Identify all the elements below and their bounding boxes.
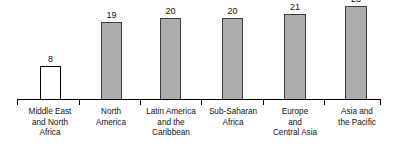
- x-axis-line: [17, 99, 381, 100]
- bar-value-label: 21: [290, 2, 300, 12]
- bar-rect[interactable]: [101, 22, 122, 100]
- x-axis-tick: [17, 100, 18, 105]
- x-axis-tick: [324, 100, 325, 105]
- bar-value-label: 8: [48, 54, 53, 64]
- category-label-line: America: [80, 118, 142, 129]
- category-label-north-america: North America: [80, 107, 142, 128]
- category-label-line: Central Asia: [259, 128, 331, 139]
- category-label-asia-and-the-pacific: Asia and the Pacific: [322, 107, 392, 128]
- bar-group-europe-and-central-asia[interactable]: 21: [284, 0, 306, 100]
- bar-value-label: 20: [165, 6, 175, 16]
- category-labels-layer: Middle East and North Africa North Ameri…: [0, 107, 401, 149]
- x-axis-tick: [380, 100, 381, 105]
- category-label-line: Middle East: [12, 107, 88, 118]
- category-label-line: North: [80, 107, 142, 118]
- bar-group-middle-east-and-north-africa[interactable]: 8: [40, 0, 61, 100]
- category-label-line: and the: [134, 118, 208, 129]
- x-axis-tick: [263, 100, 264, 105]
- category-label-europe-and-central-asia: Europe and Central Asia: [259, 107, 331, 139]
- category-label-line: Latin America: [134, 107, 208, 118]
- category-label-sub-saharan-africa: Sub-Saharan Africa: [198, 107, 268, 128]
- bar-value-label: 23: [351, 0, 361, 4]
- category-label-line: the Pacific: [322, 118, 392, 129]
- bar-rect[interactable]: [345, 6, 367, 100]
- bar-group-north-america[interactable]: 19: [101, 0, 122, 100]
- bar-value-label: 20: [227, 6, 237, 16]
- category-label-latin-america-and-the-caribbean: Latin America and the Caribbean: [134, 107, 208, 139]
- bar-group-latin-america-and-the-caribbean[interactable]: 20: [160, 0, 181, 100]
- x-axis-tick: [79, 100, 80, 105]
- x-axis-tick: [140, 100, 141, 105]
- bars-layer: 8 19 20 20 21 23: [0, 0, 401, 100]
- bar-value-label: 19: [106, 10, 116, 20]
- bar-group-asia-and-the-pacific[interactable]: 23: [345, 0, 367, 100]
- bar-chart-figure: 8 19 20 20 21 23: [0, 0, 401, 149]
- category-label-line: Africa: [198, 118, 268, 129]
- category-label-line: Asia and: [322, 107, 392, 118]
- bar-rect[interactable]: [160, 18, 181, 100]
- category-label-line: and North: [12, 118, 88, 129]
- category-label-line: Africa: [12, 128, 88, 139]
- x-axis-tick: [201, 100, 202, 105]
- category-label-line: Caribbean: [134, 128, 208, 139]
- category-label-line: Sub-Saharan: [198, 107, 268, 118]
- category-label-middle-east-and-north-africa: Middle East and North Africa: [12, 107, 88, 139]
- bar-rect[interactable]: [222, 18, 243, 100]
- bar-group-sub-saharan-africa[interactable]: 20: [222, 0, 243, 100]
- bar-rect[interactable]: [284, 14, 306, 100]
- category-label-line: Europe: [259, 107, 331, 118]
- bar-rect[interactable]: [40, 66, 61, 100]
- category-label-line: and: [259, 118, 331, 129]
